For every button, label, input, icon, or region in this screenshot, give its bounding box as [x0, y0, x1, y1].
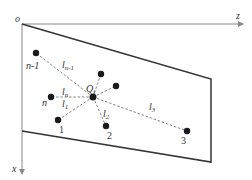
- distance-label-1: l1: [62, 98, 68, 111]
- label-1: 1: [59, 124, 64, 135]
- center-label: Qi: [86, 83, 95, 96]
- label-3: 3: [181, 135, 186, 146]
- label-n-1: n-1: [26, 60, 39, 71]
- distance-label-n-1: ln-1: [62, 59, 74, 72]
- point-1: [55, 117, 61, 123]
- label-2: 2: [107, 130, 112, 141]
- origin-label: o: [15, 13, 20, 24]
- point-upper-b: [113, 83, 119, 89]
- points: [33, 50, 190, 134]
- point-upper-a: [98, 71, 104, 77]
- z-axis-label: z: [235, 10, 240, 21]
- label-n: n: [42, 97, 47, 108]
- distance-label-2: l2: [103, 108, 110, 121]
- point-n: [48, 94, 54, 100]
- point-3: [184, 128, 190, 134]
- diagram-canvas: o z x Qi n-1 n 1 2 3 ln-1 ln l1 l2 l3: [0, 0, 252, 180]
- x-axis-label: x: [11, 163, 17, 174]
- point-2: [103, 123, 109, 129]
- point-n-1: [33, 50, 39, 56]
- distance-label-3: l3: [149, 101, 156, 114]
